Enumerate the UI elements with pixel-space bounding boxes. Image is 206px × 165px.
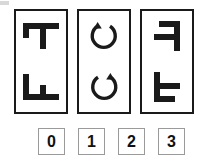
f-letter-mirrored-rotated-180-icon [154,21,180,51]
puzzle-container: 0 1 2 3 [0,0,206,165]
panel-3-cell-top [142,11,192,62]
panel-1 [14,9,68,114]
panels-row [0,0,206,120]
panel-1-cell-bottom [16,62,66,113]
f-letter-rotated-90-ccw-icon [23,74,59,100]
panel-3 [140,9,194,114]
panel-1-cell-top [16,11,66,62]
f-letter-rotated-90-cw-icon [23,23,59,49]
answer-option-1[interactable]: 1 [78,128,105,155]
panel-2-cell-bottom [79,62,129,113]
answer-option-2[interactable]: 2 [118,128,145,155]
circular-arrow-clockwise-icon [88,71,120,103]
panel-2-cell-top [79,11,129,62]
circular-arrow-counterclockwise-icon [88,20,120,52]
panel-2 [77,9,131,114]
f-letter-mirrored-icon [154,72,180,102]
answer-option-3[interactable]: 3 [158,128,185,155]
answer-option-0[interactable]: 0 [38,128,65,155]
panel-3-cell-bottom [142,62,192,113]
answer-options-row: 0 1 2 3 [0,126,206,160]
